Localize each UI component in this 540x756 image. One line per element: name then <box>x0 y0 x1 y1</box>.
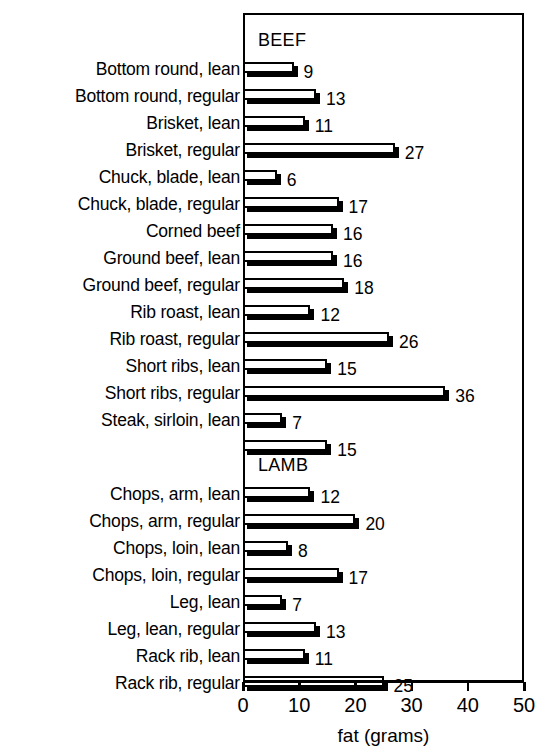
bar-value-label: 15 <box>337 441 356 459</box>
bar-body <box>243 278 344 289</box>
category-label: Short ribs, lean <box>0 357 240 375</box>
category-label: Steak, sirloin, lean <box>0 411 240 429</box>
x-axis-tick <box>467 682 470 691</box>
bar <box>243 359 332 375</box>
x-axis-line <box>243 680 524 683</box>
bar-value-label: 16 <box>343 225 362 243</box>
bar-value-label: 7 <box>292 596 302 614</box>
bar-body <box>243 359 327 370</box>
category-label: Rib roast, regular <box>0 330 240 348</box>
bar-body <box>243 440 327 451</box>
bar <box>243 487 315 503</box>
category-label: Chops, loin, regular <box>0 566 240 584</box>
section-heading-beef: BEEF <box>258 30 306 50</box>
section-heading-lamb: LAMB <box>258 455 308 475</box>
bar <box>243 332 394 348</box>
bar-body <box>243 143 395 154</box>
bar <box>243 595 287 611</box>
bar <box>243 622 321 638</box>
bar <box>243 386 450 402</box>
category-label: Brisket, regular <box>0 141 240 159</box>
bar-body <box>243 487 310 498</box>
category-label: Chuck, blade, lean <box>0 168 240 186</box>
category-label: Chops, loin, lean <box>0 539 240 557</box>
bar-value-label: 20 <box>365 515 384 533</box>
bar <box>243 251 338 267</box>
x-axis-tick-label: 50 <box>499 694 540 716</box>
x-axis-tick-label: 30 <box>387 694 437 716</box>
category-label: Rib roast, lean <box>0 303 240 321</box>
bar-body <box>243 305 310 316</box>
category-label: Chops, arm, regular <box>0 512 240 530</box>
bar-value-label: 17 <box>349 569 368 587</box>
bar-body <box>243 541 288 552</box>
category-label: Bottom round, regular <box>0 87 240 105</box>
category-label: Ground beef, lean <box>0 249 240 267</box>
bar-value-label: 7 <box>292 414 302 432</box>
category-label: Short ribs, regular <box>0 384 240 402</box>
category-label: Ground beef, regular <box>0 276 240 294</box>
bar-value-label: 13 <box>326 623 345 641</box>
x-axis-tick <box>298 682 301 691</box>
bar-value-label: 36 <box>455 387 474 405</box>
bar <box>243 541 293 557</box>
bar-body <box>243 413 282 424</box>
category-label: Corned beef <box>0 222 240 240</box>
bar-body <box>243 89 316 100</box>
category-label: Leg, lean <box>0 593 240 611</box>
x-axis-tick-label: 0 <box>218 694 268 716</box>
fat-content-bar-chart: BEEFBottom round, lean9Bottom round, reg… <box>0 0 540 756</box>
bar-body <box>243 568 339 579</box>
bar <box>243 197 344 213</box>
bar-value-label: 17 <box>349 198 368 216</box>
category-label: Chops, arm, lean <box>0 485 240 503</box>
bar <box>243 514 360 530</box>
category-label: Rack rib, lean <box>0 647 240 665</box>
x-axis-tick-label: 20 <box>330 694 380 716</box>
bar-body <box>243 386 445 397</box>
bar-value-label: 9 <box>304 63 314 81</box>
bar <box>243 676 389 692</box>
bar-value-label: 11 <box>315 117 333 135</box>
bar <box>243 568 344 584</box>
bar <box>243 143 400 159</box>
bar <box>243 89 321 105</box>
bar-body <box>243 332 389 343</box>
bar <box>243 224 338 240</box>
bar <box>243 116 310 132</box>
bar <box>243 649 310 665</box>
bar-body <box>243 649 305 660</box>
bar <box>243 278 349 294</box>
bar-value-label: 6 <box>287 171 297 189</box>
bar <box>243 170 282 186</box>
bar-body <box>243 197 339 208</box>
bar <box>243 413 287 429</box>
category-label: Bottom round, lean <box>0 60 240 78</box>
bar-body <box>243 595 282 606</box>
category-label: Brisket, lean <box>0 114 240 132</box>
bar-body <box>243 622 316 633</box>
bar-body <box>243 62 294 73</box>
bar-value-label: 26 <box>399 333 418 351</box>
bar-value-label: 27 <box>405 144 424 162</box>
category-label: Chuck, blade, regular <box>0 195 240 213</box>
x-axis-tick-label: 10 <box>274 694 324 716</box>
bar <box>243 62 299 78</box>
bar-body <box>243 514 355 525</box>
bar-value-label: 11 <box>315 650 333 668</box>
bar-value-label: 12 <box>320 306 339 324</box>
bar-value-label: 15 <box>337 360 356 378</box>
x-axis-title: fat (grams) <box>243 725 524 747</box>
x-axis-tick <box>523 682 526 691</box>
bar <box>243 440 332 456</box>
x-axis-tick-label: 40 <box>443 694 493 716</box>
bar-value-label: 12 <box>320 488 339 506</box>
x-axis-tick <box>354 682 357 691</box>
bar-body <box>243 170 277 181</box>
x-axis-tick <box>411 682 414 691</box>
category-label: Rack rib, regular <box>0 674 240 692</box>
bar-value-label: 16 <box>343 252 362 270</box>
category-label: Leg, lean, regular <box>0 620 240 638</box>
bar-value-label: 13 <box>326 90 345 108</box>
bar-value-label: 8 <box>298 542 308 560</box>
